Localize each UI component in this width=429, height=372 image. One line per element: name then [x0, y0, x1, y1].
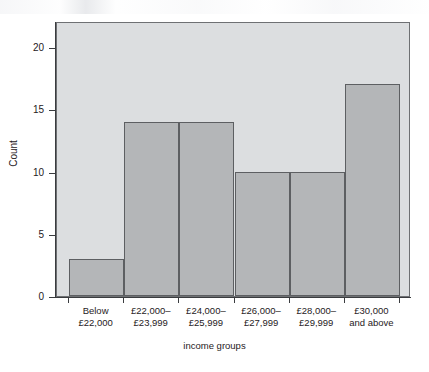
- histogram-figure: 05101520 Count Below £22,000£22,000– £23…: [0, 0, 429, 372]
- bar: [345, 84, 400, 296]
- x-tick-mark: [289, 298, 290, 303]
- x-tick-mark: [399, 298, 400, 303]
- x-tick-mark: [234, 298, 235, 303]
- y-axis-title: Count: [8, 124, 19, 184]
- y-tick-mark: [49, 48, 55, 49]
- bar: [235, 172, 290, 296]
- x-axis-title: income groups: [0, 340, 429, 351]
- x-tick-label: £30,000 and above: [338, 305, 405, 329]
- y-tick-label: 20: [4, 43, 44, 53]
- bar: [69, 259, 124, 296]
- bar: [290, 172, 345, 296]
- y-tick-label: 5: [4, 230, 44, 240]
- y-axis-line: [55, 22, 56, 298]
- bar: [124, 122, 179, 296]
- x-tick-mark: [123, 298, 124, 303]
- y-tick-mark: [49, 235, 55, 236]
- y-tick-mark: [49, 110, 55, 111]
- y-tick-label: 15: [4, 105, 44, 115]
- x-tick-mark: [178, 298, 179, 303]
- bars-layer: [57, 23, 409, 296]
- plot-area: [56, 22, 410, 297]
- x-tick-mark: [344, 298, 345, 303]
- scan-artifact-band: [0, 0, 429, 14]
- x-tick-mark: [68, 298, 69, 303]
- y-tick-mark: [49, 173, 55, 174]
- bar: [179, 122, 234, 296]
- y-tick-label: 0: [4, 292, 44, 302]
